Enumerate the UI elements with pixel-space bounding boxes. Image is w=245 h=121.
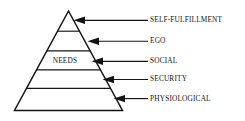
- diagram-canvas: NEEDS SELF-FULFILLMENT EGO SOCIAL SECURI…: [0, 0, 245, 121]
- leader-group-ego: [88, 38, 149, 45]
- tier-label-physiological: PHYSIOLOGICAL: [150, 94, 211, 103]
- inner-tier-label-needs: NEEDS: [53, 56, 77, 65]
- leader-group-security: [103, 76, 149, 83]
- leader-group-self-fulfillment: [74, 17, 149, 24]
- arrow-head-ego: [88, 38, 100, 45]
- hierarchy-pyramid-diagram: NEEDS SELF-FULFILLMENT EGO SOCIAL SECURI…: [0, 0, 245, 121]
- leader-group-social: [92, 58, 149, 65]
- tier-label-self-fulfillment: SELF-FULFILLMENT: [150, 15, 223, 24]
- tier-label-security: SECURITY: [150, 74, 188, 83]
- tier-label-ego: EGO: [150, 36, 166, 45]
- tier-label-social: SOCIAL: [150, 56, 178, 65]
- leader-group-physiological: [114, 95, 149, 102]
